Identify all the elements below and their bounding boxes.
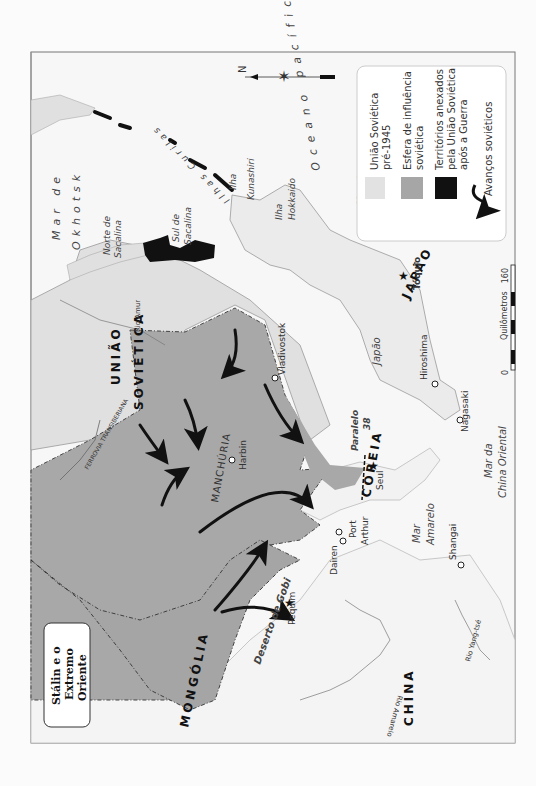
svg-text:UNIÃO: UNIÃO — [108, 326, 123, 385]
svg-text:Okhotsk: Okhotsk — [70, 170, 83, 250]
svg-text:Amarelo: Amarelo — [425, 503, 436, 546]
svg-text:União Soviética: União Soviética — [369, 93, 380, 171]
legend-swatch-ussr — [365, 177, 385, 199]
svg-text:Sul de: Sul de — [171, 214, 181, 242]
legend: União Soviética pré-1945 Esfera de influ… — [357, 66, 506, 241]
svg-text:Esfera de influência: Esfera de influência — [402, 71, 413, 170]
svg-text:✶: ✶ — [277, 67, 290, 86]
svg-text:Sacalina: Sacalina — [113, 220, 123, 258]
map-canvas: ★ ★ ★ UNIÃO SOVIÉTICA MONGÓLIA CHINA COR… — [0, 0, 536, 786]
svg-text:China Oriental: China Oriental — [497, 426, 508, 498]
legend-swatch-sphere — [401, 177, 423, 199]
city-dairen-marker — [336, 529, 342, 535]
svg-text:Shangai: Shangai — [448, 524, 458, 560]
svg-text:Kunashiri: Kunashiri — [246, 158, 256, 200]
svg-text:Ilha: Ilha — [274, 204, 284, 220]
svg-text:Harbin: Harbin — [238, 440, 248, 470]
svg-text:Avanços soviéticos: Avanços soviéticos — [483, 102, 494, 196]
svg-text:Territórios anexados: Territórios anexados — [434, 69, 445, 171]
svg-text:Ilha: Ilha — [228, 174, 238, 190]
svg-text:Tóquio: Tóquio — [412, 257, 422, 290]
svg-text:38: 38 — [362, 417, 372, 430]
svg-text:Japão: Japão — [371, 337, 382, 367]
city-hiroshima-marker — [432, 381, 438, 387]
svg-text:pré-1945: pré-1945 — [381, 125, 392, 170]
svg-text:Port: Port — [348, 520, 358, 538]
svg-text:Arthur: Arthur — [360, 516, 370, 545]
svg-text:após a Guerra: após a Guerra — [458, 99, 469, 170]
svg-text:0: 0 — [501, 370, 510, 375]
svg-text:Vladivostok: Vladivostok — [277, 322, 287, 375]
svg-text:Sacalina: Sacalina — [183, 207, 193, 245]
svg-text:Rio Amur: Rio Amur — [134, 300, 142, 332]
svg-text:Quilômetros: Quilômetros — [499, 291, 509, 340]
svg-text:Pequim: Pequim — [287, 592, 297, 625]
svg-text:Oriente: Oriente — [76, 654, 89, 701]
svg-text:Paralelo: Paralelo — [350, 410, 360, 451]
svg-text:Dairen: Dairen — [329, 545, 339, 575]
city-harbin-marker — [229, 457, 235, 463]
legend-swatch-annexed — [435, 177, 457, 199]
svg-text:N: N — [237, 66, 248, 73]
svg-text:Mar: Mar — [411, 523, 422, 543]
map-title-box: Stálin e o Extremo Oriente — [44, 623, 90, 727]
city-shanghai-marker — [458, 562, 464, 568]
svg-text:Seul: Seul — [375, 471, 385, 490]
svg-text:Hokkaido: Hokkaido — [287, 178, 297, 220]
svg-text:Nagasaki: Nagasaki — [460, 391, 470, 432]
svg-text:Norte de: Norte de — [102, 215, 112, 255]
city-port-arthur-marker — [340, 538, 346, 544]
svg-text:soviética: soviética — [414, 125, 425, 170]
svg-text:160: 160 — [501, 268, 510, 283]
svg-text:Extremo: Extremo — [63, 648, 76, 700]
svg-text:Mar de: Mar de — [50, 172, 63, 240]
svg-text:Mar da: Mar da — [483, 443, 494, 478]
svg-text:Stálin e o: Stálin e o — [50, 646, 63, 705]
svg-text:pela União Soviética: pela União Soviética — [446, 68, 457, 170]
svg-text:Hiroshima: Hiroshima — [419, 335, 429, 380]
